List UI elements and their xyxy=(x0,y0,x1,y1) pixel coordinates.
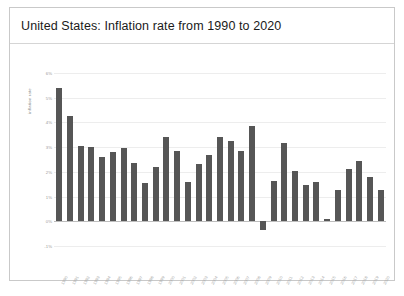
bar xyxy=(313,182,319,222)
page-title: United States: Inflation rate from 1990 … xyxy=(10,19,281,33)
bar xyxy=(260,221,266,230)
bar xyxy=(163,137,169,221)
bar xyxy=(324,219,330,221)
y-tick-label: 0% xyxy=(46,219,52,224)
bar xyxy=(121,148,127,221)
bar xyxy=(196,164,202,221)
bar xyxy=(88,147,94,221)
bar xyxy=(249,126,255,221)
y-axis-ticks: 6%5%4%3%2%1%0%-1% xyxy=(32,44,52,281)
bar xyxy=(378,190,384,221)
bar xyxy=(153,167,159,221)
bar xyxy=(356,161,362,222)
bar xyxy=(367,177,373,221)
bar xyxy=(346,169,352,221)
bar xyxy=(67,116,73,221)
y-tick-label: 6% xyxy=(46,71,52,76)
y-tick-label: 2% xyxy=(46,169,52,174)
bar xyxy=(142,183,148,221)
bar xyxy=(238,151,244,221)
bar xyxy=(271,181,277,222)
y-tick-label: 3% xyxy=(46,145,52,150)
chart-card: United States: Inflation rate from 1990 … xyxy=(9,7,395,281)
bar xyxy=(78,146,84,221)
bar xyxy=(131,163,137,221)
bar xyxy=(110,152,116,221)
bar-series xyxy=(54,44,386,281)
chart-screenshot: United States: Inflation rate from 1990 … xyxy=(0,0,404,296)
bar xyxy=(206,155,212,222)
bar xyxy=(303,185,309,221)
bar xyxy=(56,88,62,221)
y-tick-label: 5% xyxy=(46,95,52,100)
y-tick-label: -1% xyxy=(44,244,52,249)
bar xyxy=(335,190,341,221)
bar xyxy=(174,151,180,221)
bar xyxy=(281,143,287,221)
bar xyxy=(228,141,234,221)
y-tick-label: 1% xyxy=(46,194,52,199)
bar xyxy=(217,137,223,221)
y-tick-label: 4% xyxy=(46,120,52,125)
bar xyxy=(185,182,191,222)
x-axis-ticks: 1990199119921993199419951996199719981999… xyxy=(54,281,386,296)
bar xyxy=(292,171,298,222)
chart-title-band: United States: Inflation rate from 1990 … xyxy=(10,8,394,44)
plot-area: inflation rate 6%5%4%3%2%1%0%-1% 1990199… xyxy=(10,44,394,281)
bar xyxy=(99,157,105,221)
